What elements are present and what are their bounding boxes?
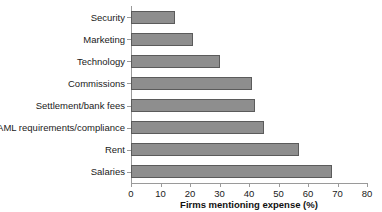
bar — [131, 11, 175, 24]
y-axis-tick-label: Salaries — [0, 166, 125, 177]
x-axis-tick — [220, 183, 221, 187]
x-axis-tick-label: 80 — [352, 188, 382, 199]
bar-row: Technology — [131, 50, 367, 72]
bar — [131, 143, 299, 156]
y-axis-tick-label: Security — [0, 12, 125, 23]
bar-chart-figure: SecurityMarketingTechnologyCommissionsSe… — [0, 0, 382, 212]
x-axis-tick — [367, 183, 368, 187]
x-axis-tick-label: 0 — [116, 188, 146, 199]
y-axis-tick-label: Rent — [0, 144, 125, 155]
x-axis-tick — [249, 183, 250, 187]
bar-row: AML requirements/compliance — [131, 117, 367, 139]
y-axis-tick-label: Marketing — [0, 34, 125, 45]
x-axis-tick — [308, 183, 309, 187]
bar-row: Salaries — [131, 161, 367, 183]
x-axis-tick-label: 60 — [293, 188, 323, 199]
x-axis-tick-label: 20 — [175, 188, 205, 199]
bar — [131, 55, 220, 68]
bar — [131, 121, 264, 134]
bar — [131, 77, 252, 90]
y-axis-tick-label: Settlement/bank fees — [0, 100, 125, 111]
bar-row: Settlement/bank fees — [131, 95, 367, 117]
x-axis-tick-label: 70 — [323, 188, 353, 199]
y-axis-tick-label: AML requirements/compliance — [0, 122, 125, 133]
y-axis-tick-label: Commissions — [0, 78, 125, 89]
y-axis-tick-label: Technology — [0, 56, 125, 67]
bar-row: Marketing — [131, 28, 367, 50]
bar-row: Commissions — [131, 72, 367, 94]
x-axis-tick-label: 30 — [205, 188, 235, 199]
x-axis-tick-label: 10 — [146, 188, 176, 199]
bar — [131, 165, 332, 178]
x-axis-tick — [338, 183, 339, 187]
x-axis-tick-label: 40 — [234, 188, 264, 199]
bar — [131, 33, 193, 46]
plot-area: SecurityMarketingTechnologyCommissionsSe… — [131, 6, 367, 183]
x-axis-title: Firms mentioning expense (%) — [131, 199, 367, 210]
x-axis-tick — [190, 183, 191, 187]
x-axis-tick — [161, 183, 162, 187]
bar — [131, 99, 255, 112]
bar-row: Security — [131, 6, 367, 28]
x-axis-tick — [131, 183, 132, 187]
x-axis-tick-label: 50 — [264, 188, 294, 199]
x-axis-tick — [279, 183, 280, 187]
bar-row: Rent — [131, 139, 367, 161]
